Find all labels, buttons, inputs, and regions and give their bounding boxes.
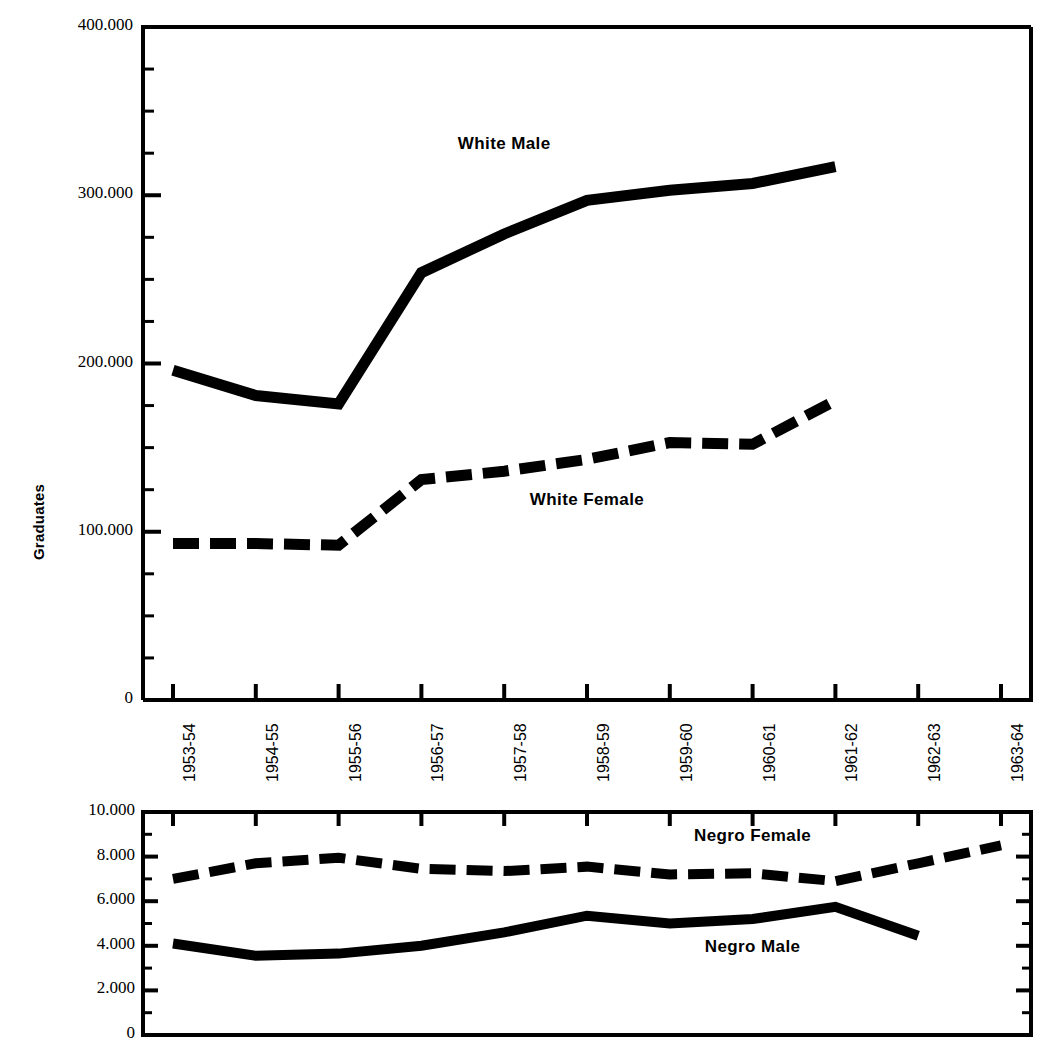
upper-y-tick-label: 400.000 bbox=[0, 15, 133, 35]
lower-y-tick-label: 0 bbox=[0, 1023, 135, 1043]
x-tick-label: 1957-58 bbox=[512, 723, 530, 782]
chart-canvas bbox=[0, 0, 1056, 1056]
upper-panel bbox=[143, 27, 1031, 700]
upper-y-tick-label: 0 bbox=[0, 688, 133, 708]
lower-y-tick-label: 6.000 bbox=[0, 889, 135, 909]
lower-y-tick-label: 10.000 bbox=[0, 800, 135, 820]
x-tick-label: 1958-59 bbox=[595, 723, 613, 782]
lower-y-tick-label: 4.000 bbox=[0, 934, 135, 954]
lower-panel bbox=[143, 812, 1031, 1035]
x-tick-label: 1962-63 bbox=[926, 723, 944, 782]
x-tick-label: 1960-61 bbox=[761, 723, 779, 782]
figure-container: Graduates 0100.000200.000300.000400.0001… bbox=[0, 0, 1056, 1056]
lower-y-tick-label: 8.000 bbox=[0, 845, 135, 865]
x-tick-label: 1955-56 bbox=[347, 723, 365, 782]
upper-y-tick-label: 300.000 bbox=[0, 183, 133, 203]
upper-y-tick-label: 100.000 bbox=[0, 520, 133, 540]
x-tick-label: 1953-54 bbox=[181, 723, 199, 782]
x-tick-label: 1956-57 bbox=[429, 723, 447, 782]
x-tick-label: 1954-55 bbox=[264, 723, 282, 782]
series-line-white-male bbox=[173, 167, 835, 404]
series-annotation: White Male bbox=[458, 134, 551, 154]
series-annotation: White Female bbox=[530, 490, 644, 510]
series-line-white-female bbox=[173, 401, 835, 546]
upper-y-tick-label: 200.000 bbox=[0, 352, 133, 372]
series-annotation: Negro Female bbox=[694, 826, 811, 846]
series-annotation: Negro Male bbox=[705, 937, 801, 957]
x-tick-label: 1961-62 bbox=[843, 723, 861, 782]
x-tick-label: 1963-64 bbox=[1009, 723, 1027, 782]
series-line-negro-male bbox=[173, 907, 918, 956]
series-line-negro-female bbox=[173, 845, 1001, 881]
lower-y-tick-label: 2.000 bbox=[0, 978, 135, 998]
x-tick-label: 1959-60 bbox=[678, 723, 696, 782]
